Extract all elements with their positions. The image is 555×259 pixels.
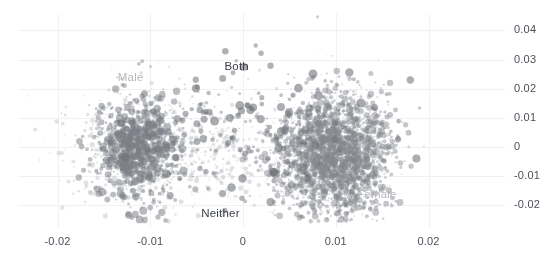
y-axis-tick-0: 0 <box>514 140 520 152</box>
x-axis-tick-001: -0.01 <box>120 235 180 247</box>
x-axis-tick-0: 0 <box>213 235 273 247</box>
cluster-label-male: Male <box>118 71 144 83</box>
y-axis-tick-003: 0.03 <box>514 53 536 65</box>
y-axis-tick-001: -0.01 <box>514 169 540 181</box>
cluster-label-both: Both <box>224 60 248 72</box>
scatter-plot-figure: MaleBothNeitherFemale 0.040.030.020.010-… <box>0 0 555 259</box>
y-axis-tick-001: 0.01 <box>514 111 536 123</box>
y-axis-tick-004: 0.04 <box>514 23 536 35</box>
x-axis-tick-002: -0.02 <box>28 235 88 247</box>
x-axis-tick-002: 0.02 <box>399 235 459 247</box>
x-axis-tick-001: 0.01 <box>306 235 366 247</box>
scatter-plot-canvas <box>0 0 555 259</box>
cluster-label-female: Female <box>357 188 397 200</box>
y-axis-tick-002: 0.02 <box>514 82 536 94</box>
y-axis-tick-002: -0.02 <box>514 198 540 210</box>
cluster-label-neither: Neither <box>201 207 239 219</box>
